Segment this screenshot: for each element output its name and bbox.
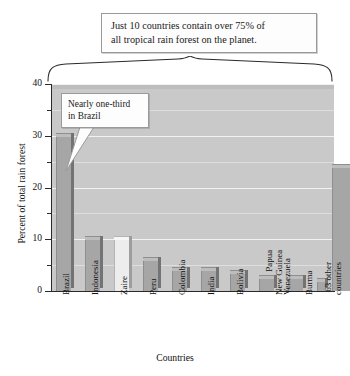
bar-slot-bolivia <box>230 84 245 291</box>
callout-line-1: Nearly one-third <box>68 98 143 110</box>
x-tick-label-indonesia: Indonesia <box>91 260 101 295</box>
bar-topcap <box>332 164 350 168</box>
y-tick-40 <box>45 84 51 85</box>
x-tick-label-line-1: 63 other <box>323 262 333 292</box>
bar-slot-burma <box>317 84 325 291</box>
brazil-callout-box: Nearly one-third in Brazil <box>61 93 149 128</box>
y-tick-label-40: 40 <box>2 78 42 88</box>
y-axis-line <box>51 84 52 292</box>
range-brace-icon <box>46 56 334 82</box>
y-tick-30 <box>45 136 51 137</box>
x-tick-label-peru: Peru <box>149 279 159 296</box>
x-tick-label-zaire: Zaire <box>120 276 130 295</box>
x-tick-label-line-2: countries <box>334 262 344 295</box>
y-tick-35 <box>47 110 51 111</box>
bar-topcap <box>143 257 158 261</box>
bar-topcap <box>114 236 129 240</box>
y-tick-10 <box>45 239 51 240</box>
x-tick-label-63-other-countries: 63 other countries <box>324 262 343 295</box>
callout-pointer-icon <box>58 125 98 173</box>
bar-slot-india <box>201 84 216 291</box>
summary-caption-box: Just 10 countries contain over 75% of al… <box>101 13 317 53</box>
x-axis-title: Countries <box>0 352 350 363</box>
x-tick-label-burma: Burma <box>305 271 315 296</box>
x-tick-label-brazil: Brazil <box>62 273 72 295</box>
y-tick-0 <box>45 291 51 292</box>
x-tick-label-bolivia: Bolivia <box>236 269 246 296</box>
y-axis-title: Percent of total rain forest <box>16 106 27 281</box>
bar-topcap <box>201 267 216 271</box>
x-tick-label-venezuela: Venezuela <box>283 258 293 295</box>
y-tick-20 <box>45 188 51 189</box>
caption-line-1: Just 10 countries contain over 75% of <box>111 19 309 33</box>
caption-line-2: all tropical rain forest on the planet. <box>111 33 309 47</box>
y-tick-5 <box>47 265 51 266</box>
bar-slot-63-other-countries <box>332 84 350 291</box>
y-tick-25 <box>47 162 51 163</box>
y-tick-label-0: 0 <box>2 285 42 295</box>
y-tick-15 <box>47 213 51 214</box>
bar-topcap <box>85 236 100 240</box>
callout-line-2: in Brazil <box>68 110 143 122</box>
x-tick-label-india: India <box>207 277 217 296</box>
x-tick-label-line-1: Papua <box>264 250 274 272</box>
x-tick-label-colombia: Colombia <box>178 260 188 296</box>
